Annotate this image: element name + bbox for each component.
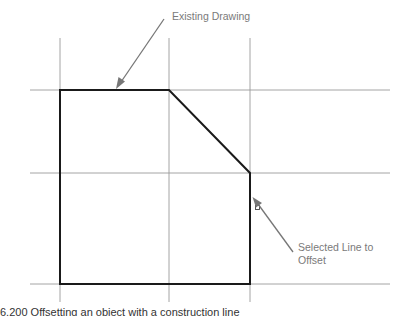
selected-line-label: Selected Line to Offset	[298, 241, 373, 267]
selected-line-leader	[258, 204, 293, 252]
diagram-canvas: Existing Drawing Selected Line to Offset…	[0, 0, 397, 316]
selected-line-label-line2: Offset	[298, 254, 373, 267]
selected-line-arrowhead-icon	[253, 197, 263, 208]
figure-caption-clipped: 6.200 Offsetting an object with a constr…	[0, 305, 397, 316]
existing-drawing-object[interactable]	[60, 90, 250, 284]
figure-caption-text: 6.200 Offsetting an object with a constr…	[0, 305, 397, 316]
existing-drawing-leader	[121, 19, 164, 82]
selected-line-label-line1: Selected Line to	[298, 241, 373, 254]
diagram-svg	[0, 0, 397, 316]
existing-drawing-label: Existing Drawing	[172, 10, 250, 23]
